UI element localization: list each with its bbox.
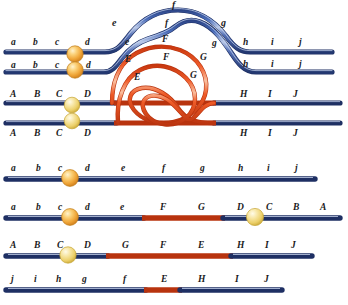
label-top-I3: I [267,89,272,99]
label-top-r4-B: B [33,128,40,138]
label-b3-A: A [9,240,16,250]
label-top-r3-D: D [83,89,91,99]
label-loop-e-outer: e [112,17,117,28]
label-b2-F: F [159,202,167,212]
label-top-I4: I [267,128,272,138]
label-top-r1-d: d [85,37,90,47]
label-b3-C: C [57,240,64,250]
label-orange-G-inner: G [190,70,197,80]
label-top-h1: h [243,37,248,47]
label-top-H4: H [239,128,248,138]
label-b3-H: H [236,240,245,250]
background [0,0,348,305]
label-b4-h: h [56,274,61,284]
label-top-r2-b: b [33,60,38,70]
label-orange-G-outer: G [200,52,207,62]
label-b3-B: B [33,240,40,250]
label-top-i2: i [271,59,274,69]
label-top-r3-C: C [56,89,63,99]
label-b2-a: a [11,202,16,212]
label-b2-d: d [85,202,90,212]
label-top-J4: J [292,128,298,138]
label-b4-g: g [81,274,87,284]
label-b1-h: h [238,163,243,173]
label-b4-i: i [34,274,37,284]
label-b4-H: H [197,274,206,284]
label-orange-E-outer: E [124,54,131,64]
label-b4-I: I [234,274,239,284]
label-b2-G: G [198,202,205,212]
label-top-r3-B: B [33,89,40,99]
label-b1-d: d [85,163,90,173]
label-top-r1-b: b [33,37,38,47]
label-loop-g-inner: g [211,38,217,48]
label-b3-D: D [83,240,91,250]
label-b1-i: i [267,163,270,173]
label-loop-g-outer: g [220,17,226,28]
label-top-r2-a: a [11,60,16,70]
label-top-H3: H [239,89,248,99]
label-b3-F: F [159,240,167,250]
label-b4-E: E [160,274,167,284]
label-b3-I: I [264,240,269,250]
label-top-r4-C: C [56,128,63,138]
label-top-r4-A: A [9,128,16,138]
label-b4-J: J [263,274,269,284]
label-b1-g: g [199,163,205,173]
label-top-i1: i [271,37,274,47]
label-orange-F-outer: F [161,34,169,44]
label-b2-D: D [236,202,244,212]
label-orange-F-inner: F [162,52,170,62]
label-top-r2-d: d [86,60,91,70]
label-b1-a: a [11,163,16,173]
label-b3-J: J [290,240,296,250]
label-b2-C: C [266,202,273,212]
crossover-node-strand-2-left[interactable] [62,209,79,226]
label-b3-E: E [197,240,204,250]
diagram-canvas: a b c d a b c d e f g e f g h i j h i j … [0,0,348,305]
label-orange-E-inner: E [133,72,140,82]
label-top-r1-a: a [11,37,16,47]
label-b2-B: B [292,202,299,212]
label-b2-A: A [319,202,326,212]
label-top-r4-D: D [83,128,91,138]
label-b3-G: G [122,240,129,250]
crossover-node-strand-2-right[interactable] [246,208,263,225]
label-b2-b: b [36,202,41,212]
label-b1-b: b [36,163,41,173]
label-top-r3-A: A [9,89,16,99]
label-top-J3: J [292,89,298,99]
label-top-h2: h [243,59,248,69]
crossover-node-strand-1[interactable] [62,170,79,187]
